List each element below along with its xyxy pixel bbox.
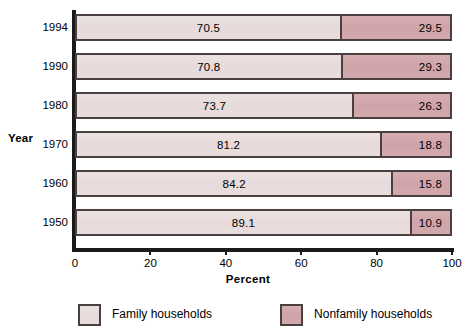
legend-label: Nonfamily households <box>314 304 432 324</box>
x-axis-title: Percent <box>0 273 466 285</box>
stacked-bar-chart: Year 199419901980197019601950 70.529.570… <box>0 0 466 330</box>
bar-value-label-family: 73.7 <box>203 100 226 112</box>
y-axis-tick-label: 1960 <box>38 170 68 197</box>
y-axis-title: Year <box>8 132 33 144</box>
bar-value-label-nonfamily: 15.8 <box>419 178 442 190</box>
x-axis-tick-mark <box>300 248 302 255</box>
x-axis-line <box>72 248 454 252</box>
bar-row: 89.110.9 <box>75 209 452 236</box>
bar-value-label-family: 84.2 <box>223 178 246 190</box>
bar-segment-nonfamily: 26.3 <box>353 92 452 119</box>
bar-row: 70.829.3 <box>75 53 452 80</box>
y-axis-tick-labels: 199419901980197019601950 <box>38 10 68 248</box>
x-axis-tick-mark <box>376 248 378 255</box>
bar-segment-nonfamily: 29.5 <box>341 14 452 41</box>
bar-row: 73.726.3 <box>75 92 452 119</box>
x-axis-tick-label: 40 <box>219 257 232 269</box>
legend-item: Nonfamily households <box>280 304 432 326</box>
bar-value-label-nonfamily: 29.3 <box>419 61 442 73</box>
bar-value-label-family: 81.2 <box>217 139 240 151</box>
bar-value-label-family: 70.8 <box>197 61 220 73</box>
x-axis-tick-mark <box>225 248 227 255</box>
bar-segment-family: 89.1 <box>75 209 411 236</box>
bar-segment-family: 84.2 <box>75 170 392 197</box>
bar-value-label-nonfamily: 29.5 <box>419 22 442 34</box>
bar-segment-nonfamily: 29.3 <box>342 53 452 80</box>
bar-segment-family: 70.5 <box>75 14 341 41</box>
plot-area: 70.529.570.829.373.726.381.218.884.215.8… <box>75 10 452 248</box>
chart-legend: Family householdsNonfamily households <box>78 304 432 326</box>
legend-label: Family households <box>112 304 212 324</box>
bar-value-label-nonfamily: 26.3 <box>419 100 442 112</box>
legend-item: Family households <box>78 304 212 326</box>
bar-segment-nonfamily: 18.8 <box>381 131 452 158</box>
bar-value-label-family: 70.5 <box>197 22 220 34</box>
legend-swatch-family <box>78 304 101 326</box>
x-axis-tick-mark <box>451 248 453 255</box>
x-axis-tick-label: 100 <box>442 257 461 269</box>
bar-segment-family: 73.7 <box>75 92 353 119</box>
x-axis-tick-label: 80 <box>370 257 383 269</box>
x-axis-tick-label: 60 <box>295 257 308 269</box>
bar-segment-family: 70.8 <box>75 53 342 80</box>
x-axis-tick-mark <box>149 248 151 255</box>
bar-row: 84.215.8 <box>75 170 452 197</box>
bar-value-label-nonfamily: 18.8 <box>419 139 442 151</box>
bar-segment-nonfamily: 10.9 <box>411 209 452 236</box>
legend-swatch-nonfamily <box>280 304 303 326</box>
bar-row: 81.218.8 <box>75 131 452 158</box>
y-axis-tick-label: 1994 <box>38 14 68 41</box>
bar-value-label-family: 89.1 <box>232 217 255 229</box>
y-axis-tick-label: 1950 <box>38 209 68 236</box>
y-axis-tick-label: 1980 <box>38 92 68 119</box>
bar-segment-family: 81.2 <box>75 131 381 158</box>
y-axis-tick-label: 1990 <box>38 53 68 80</box>
bar-value-label-nonfamily: 10.9 <box>419 217 442 229</box>
x-axis-tick-label: 20 <box>144 257 157 269</box>
y-axis-tick-label: 1970 <box>38 131 68 158</box>
bar-row: 70.529.5 <box>75 14 452 41</box>
x-axis-tick-label: 0 <box>72 257 78 269</box>
bar-segment-nonfamily: 15.8 <box>392 170 452 197</box>
